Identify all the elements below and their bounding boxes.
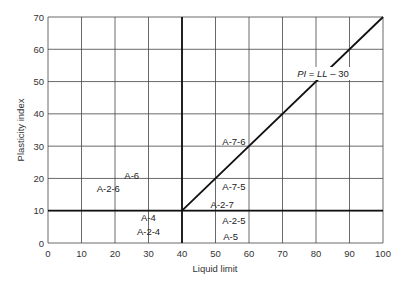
x-axis-title: Liquid limit (193, 263, 238, 274)
equation-label: PI = LL – 30 (297, 68, 349, 79)
group-label: A-5 (223, 231, 238, 242)
y-tick-label: 40 (33, 108, 44, 119)
x-tick-label: 70 (277, 248, 288, 259)
x-tick-label: 80 (311, 248, 322, 259)
x-tick-label: 0 (45, 248, 50, 259)
y-axis-title: Plasticity index (15, 98, 26, 161)
y-tick-label: 30 (33, 141, 44, 152)
y-tick-label: 10 (33, 205, 44, 216)
group-label: A-7-6 (222, 136, 245, 147)
x-tick-label: 90 (344, 248, 355, 259)
y-tick-label: 0 (39, 238, 44, 249)
x-axis-ticks: 0102030405060708090100 (45, 248, 391, 259)
x-tick-label: 60 (244, 248, 255, 259)
y-axis-ticks: 010203040506070 (33, 12, 44, 249)
y-tick-label: 20 (33, 173, 44, 184)
x-tick-label: 100 (375, 248, 391, 259)
group-label: A-2-7 (211, 199, 234, 210)
eq-equals: = (306, 68, 317, 79)
group-label: A-2-6 (97, 183, 120, 194)
group-label: A-6 (124, 170, 139, 181)
x-tick-label: 10 (76, 248, 87, 259)
y-tick-label: 50 (33, 76, 44, 87)
group-label: A-7-5 (222, 181, 245, 192)
plasticity-chart: 0102030405060708090100 010203040506070 A… (0, 0, 400, 286)
x-tick-label: 30 (143, 248, 154, 259)
eq-rest: – 30 (328, 68, 349, 79)
x-tick-label: 50 (210, 248, 221, 259)
group-label: A-2-5 (222, 215, 245, 226)
x-tick-label: 40 (177, 248, 188, 259)
eq-ll: LL (317, 68, 328, 79)
y-tick-label: 70 (33, 12, 44, 23)
eq-pi: PI (297, 68, 306, 79)
y-tick-label: 60 (33, 44, 44, 55)
group-label: A-4 (141, 212, 156, 223)
group-label: A-2-4 (137, 226, 160, 237)
x-tick-label: 20 (110, 248, 121, 259)
group-labels: A-6A-2-6A-4A-2-4A-7-6A-7-5A-2-7A-2-5A-5 (97, 67, 352, 242)
